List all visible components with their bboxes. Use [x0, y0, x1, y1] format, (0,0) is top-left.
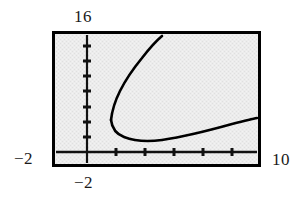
x-min-label: −2: [14, 150, 33, 167]
x-max-label: 10: [272, 151, 290, 168]
y-axis-ticks: [83, 46, 91, 137]
y-min-label: −2: [74, 174, 93, 191]
calculator-screen-figure: 16 −2 10 −2: [0, 0, 302, 206]
plot-screen: [52, 31, 261, 167]
y-max-label: 16: [74, 8, 92, 25]
plot-svg: [52, 31, 261, 167]
screen-background: [52, 31, 261, 167]
